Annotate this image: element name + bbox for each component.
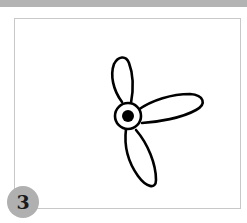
top-blade: [112, 57, 132, 103]
right-blade: [138, 94, 203, 123]
propeller-icon: [0, 0, 247, 223]
hub-center: [122, 110, 134, 122]
bottom-blade: [126, 129, 157, 186]
step-number: 3: [16, 191, 29, 213]
step-number-badge: 3: [7, 186, 39, 218]
